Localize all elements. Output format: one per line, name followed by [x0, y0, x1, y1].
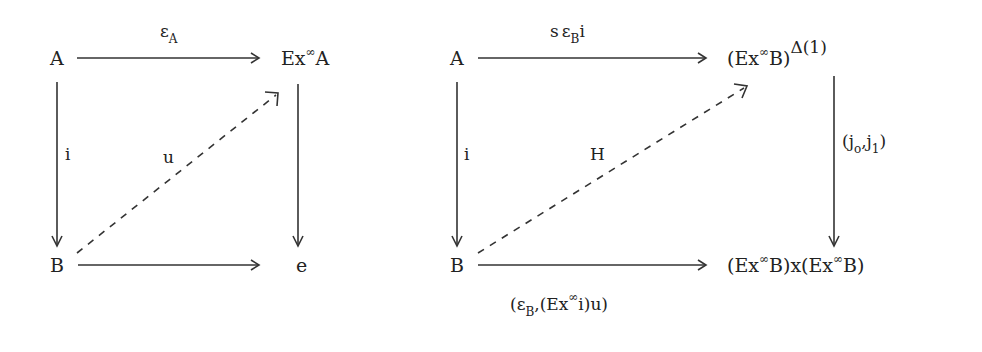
node-ExinfB-power: (Ex∞B)Δ(1): [727, 37, 827, 69]
arrow-s-epsilonB-i: [478, 53, 706, 63]
arrow-diagonal-dashed-right: [478, 84, 747, 253]
left-square: A Ex∞A B e εA i: [49, 21, 330, 276]
commutative-diagrams: A Ex∞A B e εA i: [0, 0, 982, 352]
node-B-right: B: [450, 254, 464, 276]
label-epsilonB-Exinf-i-u: (εB,(Ex∞i)u): [510, 290, 608, 319]
node-A-right: A: [449, 47, 464, 69]
node-ExinfA: Ex∞A: [281, 45, 330, 69]
arrow-i-right: [452, 82, 462, 246]
arrow-epsilonA: [77, 53, 259, 63]
label-i-right: i: [464, 144, 470, 164]
label-epsilonA: εA: [160, 21, 178, 46]
arrow-right-left-square: [293, 84, 303, 246]
node-A: A: [49, 47, 64, 69]
node-e: e: [296, 254, 307, 276]
node-ExinfB-product: (Ex∞B)x(Ex∞B): [727, 252, 864, 276]
arrow-bottom-right-square: [478, 260, 706, 270]
arrow-B-to-e: [78, 260, 259, 270]
label-u: u: [163, 147, 174, 167]
node-B: B: [50, 254, 64, 276]
label-H: H: [590, 144, 605, 164]
arrow-u-dashed: [77, 92, 278, 253]
label-s-epsilonB-i: sεBi: [550, 21, 585, 46]
right-square: A (Ex∞B)Δ(1) B (Ex∞B)x(Ex∞B) sεBi i H: [449, 21, 886, 319]
label-i: i: [65, 144, 71, 164]
arrow-j0-j1: [829, 76, 839, 246]
arrow-i: [52, 82, 62, 246]
label-j0-j1: (jo,j1): [842, 131, 886, 156]
